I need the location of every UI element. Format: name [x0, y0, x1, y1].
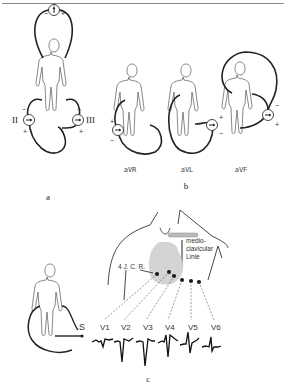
- lead-I-neg: −: [44, 10, 48, 17]
- panel-a: I − + II − + III − + a: [12, 2, 95, 202]
- ecg-traces: [92, 332, 221, 366]
- V5-label: V5: [188, 323, 198, 332]
- lead-III-neg: −: [77, 106, 81, 113]
- ecg-lead-diagram: I − + II − + III − + a + − aVR + − aVL: [0, 0, 294, 386]
- midclavicular-label-1: medio-: [186, 237, 206, 244]
- aVR-pos: +: [110, 118, 114, 125]
- V1-label: V1: [100, 323, 110, 332]
- aVL-label: aVL: [181, 166, 194, 174]
- lead-I-pos: +: [61, 10, 65, 17]
- aVR-neg: −: [110, 137, 114, 144]
- electrode-S-label: S: [79, 322, 85, 332]
- aVF-neg: −: [275, 102, 279, 109]
- aVL-neg: −: [219, 130, 223, 137]
- landmark-4icr-label: 4 J. C. R.: [118, 263, 145, 270]
- aVF-label: aVF: [235, 166, 248, 174]
- midclavicular-label-2: clavicular: [186, 245, 214, 252]
- aVL-pos: +: [219, 114, 223, 121]
- panel-b: + − aVR + − aVL − + aVF b: [110, 52, 279, 191]
- panel-a-label: a: [46, 192, 50, 202]
- panel-b-label: b: [184, 181, 189, 191]
- V4-label: V4: [165, 323, 175, 332]
- V2-label: V2: [121, 323, 131, 332]
- midclavicular-label-3: Linie: [186, 253, 200, 260]
- lead-II-neg: −: [22, 106, 26, 113]
- lead-II-label: II: [12, 115, 18, 125]
- panel-c: S medio- clavicular Linie 4 J. C. R.: [28, 210, 228, 384]
- lead-II-pos: +: [23, 128, 27, 135]
- lead-III-pos: +: [79, 128, 83, 135]
- lead-III-label: III: [86, 115, 95, 125]
- V3-label: V3: [143, 323, 153, 332]
- panel-c-label: c: [146, 375, 150, 384]
- aVF-pos: +: [275, 121, 279, 128]
- V6-label: V6: [211, 323, 221, 332]
- aVR-label: aVR: [124, 166, 137, 174]
